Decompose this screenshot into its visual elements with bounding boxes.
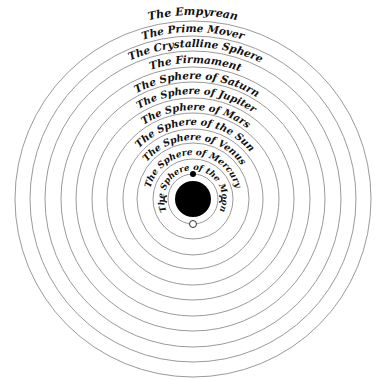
- celestial-spheres-diagram: The EmpyreanThe Prime MoverThe Crystalli…: [0, 0, 380, 380]
- diagram-canvas: The EmpyreanThe Prime MoverThe Crystalli…: [0, 0, 380, 380]
- moon-marker-icon: [190, 221, 197, 228]
- sun-marker-icon: [190, 171, 196, 177]
- earth-disk: [175, 181, 211, 217]
